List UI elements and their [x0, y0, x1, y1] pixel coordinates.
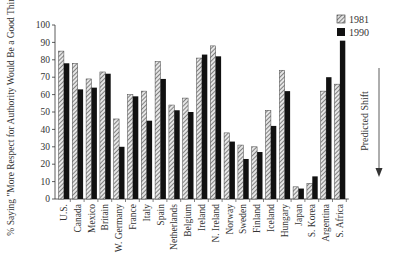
legend-label-1990: 1990 — [349, 27, 369, 38]
x-tick-label: Sweden — [238, 204, 248, 234]
bar-1981 — [169, 105, 174, 199]
bar-1990 — [216, 56, 221, 199]
x-axis-labels: U.S.CanadaMexicoBritainW. GermanyFranceI… — [59, 203, 345, 252]
y-tick-label: 10 — [41, 177, 51, 187]
bar-1990 — [133, 96, 138, 199]
bar-1990 — [202, 55, 207, 199]
x-tick-label: Japan — [294, 204, 304, 226]
x-tick-label: W. Germany — [114, 204, 124, 252]
bar-1990 — [161, 79, 166, 199]
x-tick-label: Italy — [142, 204, 152, 222]
x-tick-label: Finland — [252, 204, 262, 233]
y-tick-label: 20 — [41, 159, 51, 169]
legend-swatch-1990 — [337, 28, 345, 36]
bar-1981 — [114, 119, 119, 199]
y-tick-label: 100 — [36, 20, 51, 30]
y-tick-label: 50 — [41, 107, 51, 117]
bar-1981 — [197, 58, 202, 199]
bar-1981 — [321, 91, 326, 199]
x-tick-label: Ireland — [197, 204, 207, 231]
x-tick-label: S. Africa — [335, 203, 345, 238]
bar-1990 — [257, 152, 262, 199]
arrow-down-icon — [376, 168, 383, 177]
bar-1981 — [279, 70, 284, 199]
bar-1990 — [174, 110, 179, 199]
bar-1981 — [307, 183, 312, 199]
x-tick-label: France — [128, 204, 138, 230]
x-tick-label: Belgium — [183, 203, 193, 236]
bar-1981 — [59, 51, 64, 199]
bar-1990 — [119, 147, 124, 199]
bar-1990 — [340, 41, 345, 199]
legend: 1981 1990 — [337, 14, 369, 38]
legend-swatch-1981 — [337, 15, 345, 23]
bar-1981 — [252, 147, 257, 199]
y-tick-label: 80 — [41, 55, 51, 65]
bar-1981 — [155, 62, 160, 199]
bar-1981 — [86, 79, 91, 199]
predicted-shift-annotation: Predicted Shift — [359, 68, 383, 177]
bar-1981 — [100, 72, 105, 199]
bar-1981 — [210, 46, 215, 199]
legend-label-1981: 1981 — [349, 14, 369, 25]
x-tick-label: Britain — [100, 204, 110, 231]
bar-1990 — [92, 88, 97, 199]
x-tick-label: Mexico — [87, 204, 97, 233]
bar-1981 — [335, 84, 340, 199]
x-tick-label: N. Ireland — [211, 204, 221, 243]
y-tick-label: 70 — [41, 72, 51, 82]
bar-1990 — [243, 159, 248, 199]
bar-1990 — [230, 142, 235, 199]
x-tick-label: S. Korea — [307, 203, 317, 237]
bar-1990 — [105, 74, 110, 199]
x-tick-label: Canada — [73, 203, 83, 232]
x-tick-label: Argentina — [321, 203, 331, 242]
bars — [59, 41, 346, 199]
x-tick-label: Spain — [156, 204, 166, 226]
bar-1981 — [72, 63, 77, 199]
y-tick-label: 90 — [41, 38, 51, 48]
y-axis-label: % Saying "More Respect for Authority Wou… — [6, 0, 16, 236]
bar-1981 — [141, 91, 146, 199]
x-tick-label: Hungary — [280, 204, 290, 237]
bar-1990 — [299, 189, 304, 199]
x-tick-label: Iceland — [266, 204, 276, 232]
bar-1981 — [224, 133, 229, 199]
predicted-shift-label: Predicted Shift — [359, 91, 370, 151]
y-tick-label: 60 — [41, 90, 51, 100]
x-tick-label: Netherlands — [169, 204, 179, 250]
bar-1990 — [312, 176, 317, 199]
x-tick-label: U.S. — [59, 204, 69, 221]
bar-1990 — [64, 63, 69, 199]
y-tick-label: 30 — [41, 142, 51, 152]
bar-1990 — [78, 89, 83, 199]
bar-1990 — [271, 126, 276, 199]
bar-1990 — [188, 112, 193, 199]
bar-1981 — [238, 145, 243, 199]
bar-1981 — [128, 95, 133, 199]
y-tick-label: 40 — [41, 125, 51, 135]
bar-1981 — [293, 187, 298, 199]
bar-1981 — [183, 98, 188, 199]
bar-1981 — [266, 110, 271, 199]
bar-chart: 0102030405060708090100 U.S.CanadaMexicoB… — [0, 0, 396, 270]
y-tick-label: 0 — [45, 194, 50, 204]
x-tick-label: Norway — [225, 204, 235, 235]
bar-1990 — [285, 91, 290, 199]
bar-1990 — [326, 77, 331, 199]
bar-1990 — [147, 121, 152, 199]
